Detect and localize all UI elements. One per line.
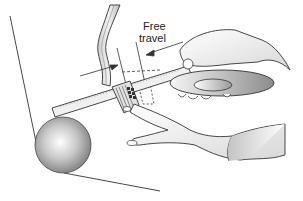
hand-holding-ruler <box>180 30 290 70</box>
ball-sphere <box>35 117 91 173</box>
steering-wheel-hub <box>170 70 274 99</box>
pedal-arm <box>98 5 120 86</box>
free-travel-diagram: Free travel <box>0 0 303 201</box>
label-travel: travel <box>139 32 166 44</box>
label-free: Free <box>143 20 166 32</box>
